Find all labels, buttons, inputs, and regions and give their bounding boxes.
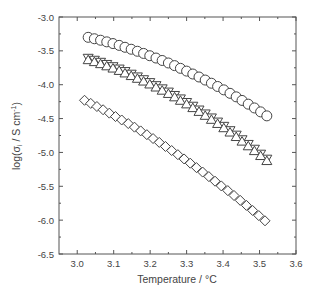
x-tick-label: 3.5 [253, 258, 266, 269]
y-tick-label: -4.0 [38, 79, 54, 90]
y-tick-label: -6.0 [38, 215, 54, 226]
series-circles [83, 32, 272, 121]
series-diamonds [80, 95, 270, 226]
scatter-plot: 3.03.13.23.33.43.53.6-3.0-3.5-4.0-4.5-5.… [0, 0, 317, 298]
chart-container: 3.03.13.23.33.43.53.6-3.0-3.5-4.0-4.5-5.… [0, 0, 317, 298]
circle-marker [262, 111, 272, 121]
x-tick-label: 3.6 [289, 258, 302, 269]
x-tick-label: 3.3 [180, 258, 193, 269]
x-axis-label: Temperature / °C [137, 273, 217, 285]
y-tick-label: -6.5 [38, 249, 54, 260]
y-tick-label: -5.5 [38, 181, 54, 192]
y-axis-label: log(σi / S cm-1) [10, 102, 23, 170]
plot-axes: 3.03.13.23.33.43.53.6-3.0-3.5-4.0-4.5-5.… [38, 12, 303, 270]
y-tick-label: -5.0 [38, 147, 54, 158]
y-tick-label: -3.0 [38, 12, 54, 23]
x-tick-label: 3.1 [107, 258, 120, 269]
y-tick-label: -4.5 [38, 113, 54, 124]
x-tick-label: 3.4 [216, 258, 229, 269]
data-markers [80, 32, 272, 226]
y-tick-label: -3.5 [38, 45, 54, 56]
x-tick-label: 3.2 [144, 258, 157, 269]
x-tick-label: 3.0 [71, 258, 84, 269]
